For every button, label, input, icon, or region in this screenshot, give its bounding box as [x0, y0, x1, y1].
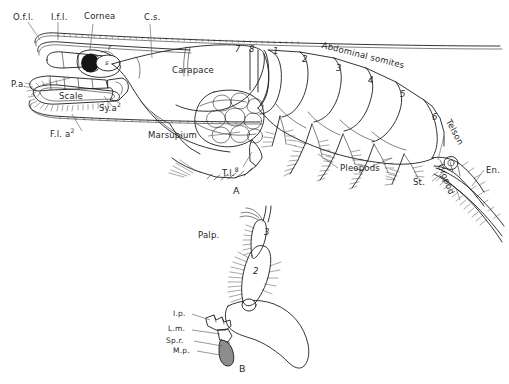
- label-flagellum-antenna2-sup: 2: [70, 127, 74, 134]
- label-outer-flagellum: O.f.l.: [13, 13, 33, 22]
- label-sympod-antenna2: Sy.a2: [99, 102, 121, 112]
- label-inner-flagellum: I.f.l.: [51, 13, 68, 22]
- label-molar-process: M.p.: [173, 347, 190, 355]
- caption-figure-b: B: [239, 364, 246, 374]
- somite-number-2: 2: [302, 55, 308, 64]
- palp-segment2-setae: [228, 252, 281, 302]
- label-lacinia-mobilis: L.m.: [168, 325, 185, 333]
- label-pleopods: Pleopods: [340, 164, 380, 173]
- label-flagellum-antenna2-text: F.l. a: [50, 129, 70, 139]
- label-sympod-antenna2-text: Sy.a: [99, 103, 117, 113]
- label-carapace: Carapace: [172, 66, 214, 75]
- label-spine-row: Sp.r.: [166, 337, 184, 345]
- label-cornea: Cornea: [84, 12, 116, 21]
- label-thoracic-limb-8: T.l.8: [222, 167, 239, 177]
- somite-number-5: 5: [400, 90, 406, 99]
- label-statocyst: St.: [413, 178, 425, 187]
- caption-figure-a: A: [233, 186, 240, 196]
- outer-flagellum-annulations: [58, 34, 298, 44]
- anatomical-plate: O.f.l. I.f.l. Cornea C.s. P.a. Scale Sy.…: [0, 0, 509, 384]
- palp-segment-2: 2: [253, 267, 259, 276]
- figure-a-group: [25, 33, 504, 242]
- somite-number-6: 6: [432, 113, 438, 122]
- label-palp: Palp.: [198, 231, 219, 240]
- label-thoracic-limb-8-sup: 8: [235, 166, 239, 173]
- label-sympod-antenna2-sup: 2: [117, 101, 121, 108]
- somite-number-1: 1: [273, 47, 279, 56]
- label-incisor-process: I.p.: [173, 310, 186, 318]
- marsupium-eggs: [207, 93, 264, 143]
- somite-number-7: 7: [235, 45, 241, 54]
- palp-segment-3: 3: [264, 228, 270, 237]
- label-endopod: En.: [486, 166, 500, 175]
- somite-number-3: 3: [336, 64, 342, 73]
- label-peduncle-antennule: P.a.: [11, 80, 26, 89]
- somite-number-8: 8: [249, 45, 255, 54]
- label-scale: Scale: [59, 92, 83, 101]
- label-cervical-sulcus: C.s.: [144, 13, 161, 22]
- label-thoracic-limb-8-text: T.l.: [222, 168, 235, 178]
- telson-spines: [462, 162, 489, 192]
- label-flagellum-antenna2: F.l. a2: [50, 128, 75, 138]
- figure-b-group: [206, 206, 309, 368]
- thoracic-limb-setae: [169, 160, 196, 177]
- label-eye-r: r: [108, 45, 111, 52]
- pleopods-group: [262, 116, 424, 189]
- label-marsupium: Marsupium: [148, 131, 197, 140]
- figure-drawing: [0, 0, 509, 384]
- label-eye-s: s: [105, 60, 109, 67]
- somite-number-4: 4: [368, 76, 374, 85]
